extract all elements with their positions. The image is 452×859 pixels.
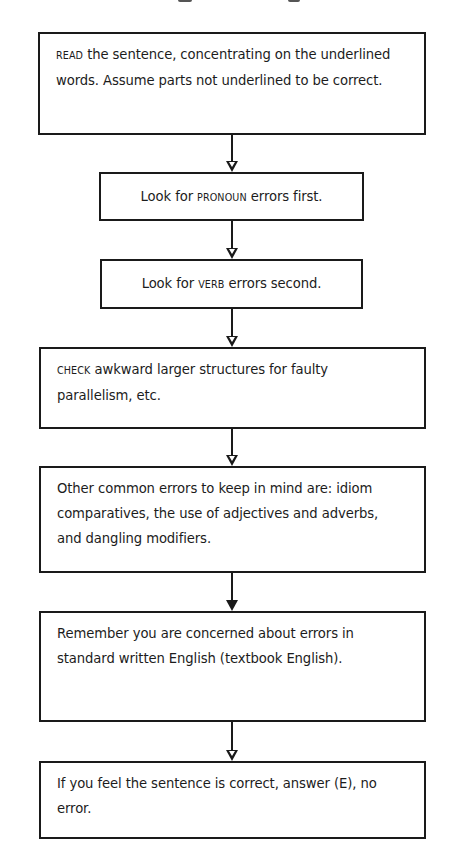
step-suffix: errors second. <box>224 276 321 291</box>
flow-step-pronoun: Look for PRONOUN errors first. <box>99 172 364 221</box>
cropped-heading-remnant <box>0 0 452 4</box>
step-keyword: CHECK <box>57 365 90 376</box>
flow-step-answer-no-error: If you feel the sentence is correct, ans… <box>39 761 426 839</box>
step-keyword: READ <box>56 50 83 61</box>
step-text: Remember you are concerned about errors … <box>57 626 354 666</box>
step-text: awkward larger structures for faulty par… <box>57 362 328 403</box>
step-keyword: VERB <box>198 279 224 290</box>
arrow-down-icon <box>226 336 238 347</box>
step-keyword: PRONOUN <box>197 192 247 203</box>
arrow-down-icon <box>226 455 238 466</box>
flow-step-check: CHECK awkward larger structures for faul… <box>39 347 426 429</box>
step-suffix: errors first. <box>247 189 323 204</box>
cropped-glyph <box>288 0 300 2</box>
flow-step-read: READ the sentence, concentrating on the … <box>38 32 426 135</box>
arrow-down-icon <box>226 750 238 761</box>
arrow-down-icon <box>226 248 238 259</box>
step-prefix: Look for <box>142 276 199 291</box>
step-text: the sentence, concentrating on the under… <box>56 47 390 88</box>
step-prefix: Look for <box>141 189 198 204</box>
step-text: If you feel the sentence is correct, ans… <box>57 776 377 816</box>
flow-step-verb: Look for VERB errors second. <box>100 259 363 309</box>
flow-step-remember: Remember you are concerned about errors … <box>39 611 426 722</box>
cropped-glyph <box>178 0 192 2</box>
arrow-down-icon <box>226 161 238 172</box>
flow-step-other-errors: Other common errors to keep in mind are:… <box>39 466 426 573</box>
step-text: Other common errors to keep in mind are:… <box>57 481 378 546</box>
arrow-down-icon <box>226 600 238 611</box>
